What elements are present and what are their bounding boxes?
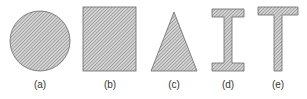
label-b: (b) <box>104 79 116 90</box>
label-e: (e) <box>272 79 284 90</box>
shape-b-rectangle <box>83 7 136 71</box>
label-a: (a) <box>34 79 46 90</box>
label-c: (c) <box>168 79 180 90</box>
label-d: (d) <box>222 79 234 90</box>
shape-e-t-beam <box>258 7 298 71</box>
shape-c-triangle <box>151 12 197 71</box>
shape-a-circle <box>10 11 70 71</box>
shape-d-i-beam <box>212 9 244 71</box>
cross-section-figure: (a) (b) (c) (d) (e) <box>0 0 307 99</box>
